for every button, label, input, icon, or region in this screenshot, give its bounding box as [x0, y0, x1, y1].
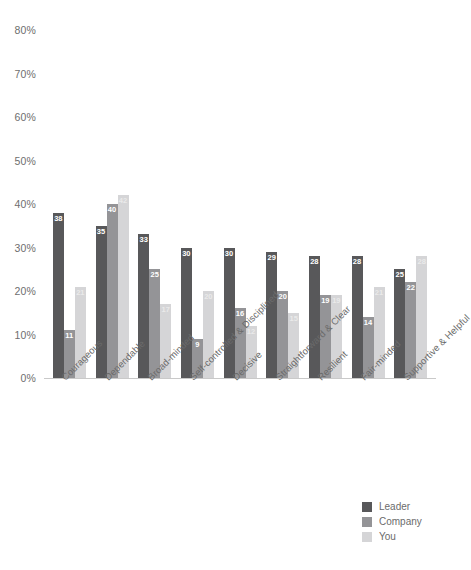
y-axis-tick-label: 30% [14, 242, 36, 254]
bar-value-label: 20 [204, 293, 212, 301]
bar-leader[interactable]: 28 [352, 256, 363, 378]
bar-value-label: 40 [108, 206, 116, 214]
bar-value-label: 14 [364, 319, 372, 327]
bar-group: 332517 [133, 30, 176, 378]
bar-value-label: 33 [140, 236, 148, 244]
bar-value-label: 11 [65, 332, 73, 340]
y-axis-tick-label: 50% [14, 155, 36, 167]
bar-value-label: 22 [407, 284, 415, 292]
bar-group: 381121 [48, 30, 91, 378]
legend-label: You [379, 532, 396, 542]
legend-swatch-icon [362, 532, 372, 542]
bar-group: 292015 [261, 30, 304, 378]
bar-company[interactable]: 40 [107, 204, 118, 378]
bar-value-label: 30 [182, 250, 190, 258]
bar-group: 281421 [347, 30, 390, 378]
bar-value-label: 21 [375, 289, 383, 297]
bar-leader[interactable]: 28 [309, 256, 320, 378]
y-axis-tick-label: 0% [20, 372, 36, 384]
bar-value-label: 17 [162, 306, 170, 314]
y-axis-tick-label: 40% [14, 198, 36, 210]
bar-leader[interactable]: 35 [96, 226, 107, 378]
bar-leader[interactable]: 30 [181, 248, 192, 379]
bar-value-label: 35 [97, 228, 105, 236]
bar-value-label: 15 [290, 315, 298, 323]
bar-value-label: 19 [321, 297, 329, 305]
legend-label: Leader [379, 502, 410, 512]
y-axis-tick-label: 10% [14, 329, 36, 341]
y-axis-tick-label: 70% [14, 68, 36, 80]
bar-value-label: 16 [236, 310, 244, 318]
bar-value-label: 29 [268, 254, 276, 262]
bar-group: 252228 [389, 30, 432, 378]
bar-value-label: 21 [76, 289, 84, 297]
legend-item[interactable]: Company [362, 517, 422, 527]
bar-leader[interactable]: 29 [266, 252, 277, 378]
legend-label: Company [379, 517, 422, 527]
bar-value-label: 28 [310, 258, 318, 266]
bar-group: 354042 [91, 30, 134, 378]
bar-value-label: 30 [225, 250, 233, 258]
x-axis-tick-labels: CourageousDependableBroad-mindedSelf-con… [44, 379, 436, 499]
bar-value-label: 9 [195, 341, 199, 349]
bar-value-label: 25 [151, 271, 159, 279]
bar-value-label: 28 [418, 258, 426, 266]
bar-leader[interactable]: 38 [53, 213, 64, 378]
bar-value-label: 38 [54, 215, 62, 223]
bar-value-label: 25 [396, 271, 404, 279]
legend-item[interactable]: You [362, 532, 422, 542]
y-axis-tick-label: 60% [14, 111, 36, 123]
y-axis-tick-label: 80% [14, 24, 36, 36]
legend-swatch-icon [362, 517, 372, 527]
bar-value-label: 42 [119, 197, 127, 205]
legend-swatch-icon [362, 502, 372, 512]
bar-leader[interactable]: 25 [394, 269, 405, 378]
bar-value-label: 19 [332, 297, 340, 305]
bar-leader[interactable]: 30 [224, 248, 235, 379]
legend-item[interactable]: Leader [362, 502, 422, 512]
y-axis-tick-label: 20% [14, 285, 36, 297]
bar-leader[interactable]: 33 [138, 234, 149, 378]
chart-legend: LeaderCompanyYou [362, 502, 422, 542]
bar-group: 30920 [176, 30, 219, 378]
bar-value-label: 28 [353, 258, 361, 266]
